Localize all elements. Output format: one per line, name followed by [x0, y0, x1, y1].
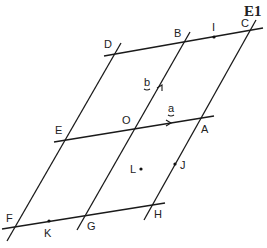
line-bg — [77, 32, 190, 230]
line-df — [7, 43, 121, 241]
point-i-label: I — [212, 21, 215, 33]
line-ch — [144, 20, 256, 220]
point-k-label: K — [44, 227, 52, 239]
line-dc — [104, 28, 263, 56]
point-g-label: G — [87, 220, 96, 232]
point-e-label: E — [55, 124, 62, 136]
vector-b-mark-icon — [144, 89, 150, 90]
vector-a-mark-icon — [168, 115, 174, 116]
point-l-label: L — [130, 163, 136, 175]
point-i-dot — [212, 35, 215, 38]
point-a-label: A — [201, 123, 209, 135]
vector-a-label: a — [168, 102, 175, 114]
geometry-diagram: E1 b a D B I C E O A L J F K G H — [0, 0, 267, 248]
point-b-label: B — [174, 27, 181, 39]
point-j-dot — [173, 162, 176, 165]
point-h-label: H — [154, 208, 162, 220]
point-d-label: D — [104, 38, 112, 50]
point-o-label: O — [122, 114, 131, 126]
point-k-dot — [47, 219, 50, 222]
vector-b-label: b — [144, 76, 150, 88]
point-c-label: C — [241, 17, 249, 29]
vector-b-arrowhead-icon — [157, 85, 162, 91]
point-f-label: F — [6, 212, 13, 224]
point-l-dot — [139, 167, 142, 170]
point-j-label: J — [180, 159, 186, 171]
